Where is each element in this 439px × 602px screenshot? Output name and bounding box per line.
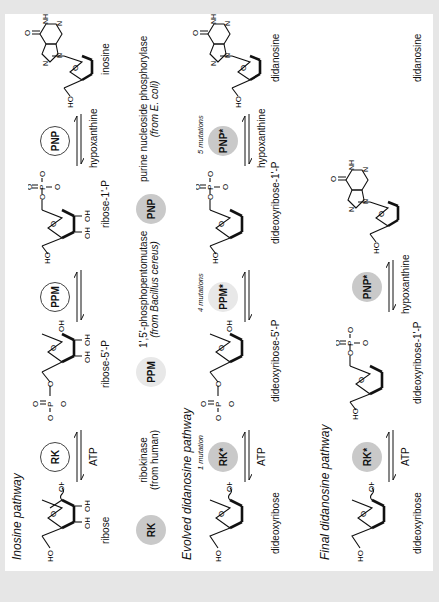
svg-text:OH: OH [225, 320, 234, 332]
svg-text:P: P [46, 402, 55, 407]
equilibrium-arrow-pnp-star-1 [242, 112, 252, 168]
svg-text:HO: HO [372, 242, 381, 254]
svg-text:OH: OH [83, 334, 90, 346]
didanosine-structure-2: HO O O NH N N N [318, 160, 402, 256]
svg-text:O: O [239, 65, 248, 71]
svg-text:HO: HO [66, 96, 75, 108]
svg-text:OH: OH [83, 227, 90, 239]
ribose-1p-structure: HO O OH OH O P O O O [28, 164, 90, 264]
svg-text:N: N [56, 53, 63, 58]
svg-text:OH: OH [83, 210, 90, 222]
legend-pnp-name: purine nucleoside phosphorylase(from E. … [138, 36, 160, 182]
svg-text:P: P [346, 341, 355, 346]
legend-ppm-name: 1',5'-phosphopentomutase(from Bacillus c… [138, 231, 160, 348]
dideoxyribose-1p-structure-1: HO O O P O O O [196, 164, 258, 264]
dideoxyribose-1p-structure-2: HO O O P O O O [336, 320, 398, 420]
pathway-title-evolved: Evolved didanosine pathway [180, 408, 194, 560]
mutations-ppm: 4 mutations [196, 273, 205, 312]
didanosine-structure-1: HO O O NH N N N [180, 14, 264, 110]
equilibrium-arrow-pnp-star-2 [386, 258, 396, 314]
svg-text:N: N [210, 61, 217, 66]
enzyme-pnp-star-1: PNP* [208, 126, 238, 156]
cofactor-atp-2: ATP [256, 447, 267, 466]
svg-text:O: O [217, 221, 226, 227]
equilibrium-arrow-rk-star-2 [386, 428, 396, 484]
svg-text:HO: HO [214, 550, 223, 562]
equilibrium-arrow-pnp [74, 112, 84, 168]
equilibrium-arrow-rk [74, 428, 84, 484]
svg-text:HO: HO [234, 96, 243, 108]
svg-text:OH: OH [83, 500, 90, 512]
svg-text:O: O [214, 415, 223, 421]
svg-text:O: O [217, 345, 226, 351]
svg-text:OH: OH [57, 320, 66, 332]
svg-text:O: O [221, 184, 230, 190]
svg-text:NH: NH [348, 160, 355, 170]
dideoxyribose-5p-structure: O P O O O O OH [196, 314, 258, 426]
svg-text:OH: OH [83, 517, 90, 529]
svg-text:P: P [206, 185, 215, 190]
svg-text:HO: HO [351, 408, 360, 420]
ribose-structure: HO O OH OH OH [28, 482, 90, 562]
svg-text:N: N [42, 61, 49, 66]
svg-text:O: O [191, 30, 200, 36]
svg-text:O: O [38, 194, 47, 200]
svg-text:O: O [53, 184, 62, 190]
svg-text:O: O [359, 511, 368, 517]
svg-text:O: O [217, 511, 226, 517]
svg-text:O: O [357, 377, 366, 383]
svg-text:O: O [206, 171, 215, 177]
svg-text:O: O [46, 381, 55, 387]
cofactor-atp-1: ATP [88, 447, 99, 466]
svg-text:O: O [49, 511, 58, 517]
svg-text:HO: HO [46, 550, 55, 562]
enzyme-rk-star-1: RK* [208, 442, 238, 472]
svg-text:O: O [206, 194, 215, 200]
substrate-dideoxyribose-5p: dideoxyribose-5'-P [270, 319, 281, 402]
svg-text:O: O [329, 176, 338, 182]
dideoxyribose-structure-2: HO O OH [338, 482, 400, 562]
substrate-dideoxyribose-2: dideoxyribose [412, 492, 423, 554]
svg-text:N: N [224, 21, 231, 26]
svg-text:P: P [38, 185, 47, 190]
pathway-title-inosine: Inosine pathway [10, 473, 24, 560]
svg-text:O: O [361, 340, 370, 346]
substrate-dideoxyribose-1: dideoxyribose [270, 492, 281, 554]
mutations-pnp: 5 mutations [196, 115, 205, 154]
substrate-ribose-5p: ribose-5'-P [100, 340, 111, 388]
svg-text:O: O [196, 184, 202, 190]
diagram-stage: Inosine pathway HO O OH OH OH ribose RK … [0, 0, 439, 602]
enzyme-rk: RK [40, 442, 70, 472]
legend-enzyme-rk: RK [136, 515, 166, 545]
svg-text:OH: OH [225, 482, 234, 492]
svg-text:O: O [49, 221, 58, 227]
svg-text:OH: OH [83, 351, 90, 363]
svg-text:P: P [214, 402, 223, 407]
svg-text:O: O [199, 401, 208, 407]
legend-enzyme-ppm: PPM [136, 357, 166, 387]
cofactor-hypoxanthine-3: hypoxanthine [400, 255, 411, 315]
svg-text:N: N [362, 199, 369, 204]
svg-text:HO: HO [211, 252, 220, 264]
enzyme-pnp-star-2: PNP* [352, 272, 382, 302]
product-inosine: inosine [100, 43, 111, 75]
svg-text:N: N [362, 167, 369, 172]
ribose-5p-structure: O P O O O O OH OH OH [28, 314, 90, 426]
svg-text:HO: HO [43, 252, 52, 264]
svg-text:O: O [28, 184, 34, 190]
svg-text:OH: OH [57, 482, 66, 492]
enzyme-rk-star-2: RK* [352, 442, 382, 472]
svg-text:O: O [23, 30, 32, 36]
svg-text:O: O [214, 381, 223, 387]
mutations-rk: 1 mutation [196, 435, 205, 470]
cofactor-atp-3: ATP [400, 447, 411, 466]
svg-text:OH: OH [367, 482, 376, 492]
pathway-title-final: Final didanosine pathway [318, 425, 332, 560]
cofactor-hypoxanthine-1: hypoxanthine [88, 109, 99, 169]
svg-text:NH: NH [210, 14, 217, 24]
svg-text:O: O [336, 340, 342, 346]
svg-text:O: O [377, 211, 386, 217]
svg-text:O: O [346, 350, 355, 356]
substrate-ribose: ribose [100, 517, 111, 544]
inosine-structure: HO O O NH N N N [12, 14, 96, 110]
